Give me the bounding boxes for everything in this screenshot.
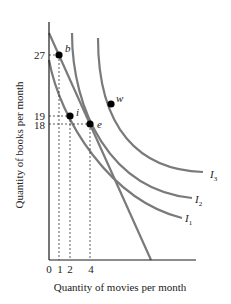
x-axis-label: Quantity of movies per month (54, 281, 187, 293)
point-w (107, 100, 114, 107)
x-tick-0: 0 (46, 263, 52, 275)
y-tick-18: 18 (34, 119, 46, 131)
point-e (86, 120, 93, 127)
point-label-b: b (65, 42, 71, 54)
point-b (55, 51, 62, 58)
curve-label-i3: I3 (209, 168, 218, 183)
indifference-curve-chart: b i e w I3 I2 I1 27 19 18 0 1 2 4 Quanti… (0, 0, 231, 304)
point-label-w: w (116, 92, 124, 104)
point-label-i: i (76, 106, 79, 118)
curve-label-i1: I1 (184, 212, 193, 227)
x-tick-2: 2 (67, 263, 73, 275)
point-label-e: e (97, 118, 102, 130)
point-i (66, 112, 73, 119)
x-tick-4: 4 (88, 263, 94, 275)
y-tick-27: 27 (34, 49, 46, 61)
curve-label-i2: I2 (194, 193, 203, 208)
indifference-curve-i1 (49, 60, 182, 218)
x-tick-1: 1 (57, 263, 63, 275)
y-axis-label: Quantity of books per month (13, 81, 25, 209)
